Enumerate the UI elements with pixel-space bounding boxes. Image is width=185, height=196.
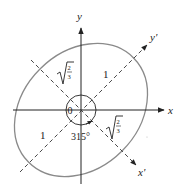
semi-axis-label-upper-left: 2 3 [57,62,74,84]
y-axis-label: y [76,10,82,22]
svg-text:2: 2 [117,118,120,125]
svg-text:3: 3 [68,73,71,80]
x-axis-label: x [167,104,173,116]
origin-angle-label: 0 [68,105,73,116]
ellipse [0,17,174,196]
semi-axis-label-upper-right: 1 [103,68,109,80]
angle-arrow-icon [86,121,92,124]
speck [146,136,147,137]
x-prime-axis [31,60,136,165]
svg-text:3: 3 [117,127,120,134]
x-prime-axis-label: x' [137,166,146,178]
semi-axis-label-lower-right: 2 3 [106,116,123,139]
y-prime-axis [20,45,147,172]
semi-axis-label-lower-left: 1 [40,129,46,141]
y-prime-axis-label: y' [149,31,158,43]
svg-text:2: 2 [68,64,71,71]
ellipse-diagram: y x y' x' 2 3 1 1 2 3 0 315° [0,0,185,196]
rotation-angle-label: 315° [71,131,90,142]
